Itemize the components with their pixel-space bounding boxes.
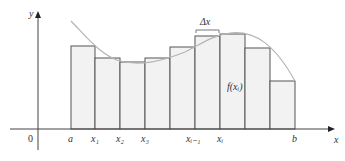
rectangles xyxy=(71,34,295,129)
tick-a: a xyxy=(68,133,73,144)
riemann-sum-diagram: Δx f(xᵢ) y x 0 a x₁ x₂ x₃ xᵢ₋₁ xᵢ b xyxy=(0,0,345,161)
f-xi-label: f(xᵢ) xyxy=(227,81,243,93)
tick-b: b xyxy=(292,133,297,144)
tick-xi-1: xᵢ₋₁ xyxy=(185,133,201,144)
tick-x3: x₃ xyxy=(140,133,149,144)
tick-xi: xᵢ xyxy=(216,133,223,144)
x-axis-label: x xyxy=(333,134,339,145)
delta-x-brace xyxy=(196,30,219,33)
origin-label: 0 xyxy=(28,133,33,144)
delta-x-label: Δx xyxy=(199,16,211,27)
tick-x1: x₁ xyxy=(90,133,99,144)
x-axis-arrow xyxy=(328,126,335,132)
y-axis-arrow xyxy=(35,11,41,18)
tick-x2: x₂ xyxy=(115,133,124,144)
y-axis-label: y xyxy=(28,8,34,19)
